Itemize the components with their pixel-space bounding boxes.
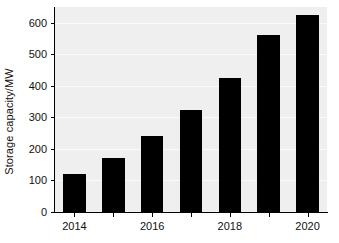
bar xyxy=(63,174,86,212)
x-tick-mark xyxy=(191,213,192,217)
bar xyxy=(102,158,125,212)
x-tick-mark xyxy=(308,213,309,217)
y-tick-label: 600 xyxy=(29,18,47,29)
x-tick-mark xyxy=(74,213,75,217)
plot-area xyxy=(55,7,327,212)
x-tick-mark xyxy=(230,213,231,217)
y-tick-label: 400 xyxy=(29,81,47,92)
bar-chart-figure: Storage capacity/MW 0100200300400500600 … xyxy=(0,0,339,243)
y-tick-mark xyxy=(51,86,55,87)
x-tick-label: 2014 xyxy=(62,220,86,232)
bars-group xyxy=(55,7,327,212)
y-tick-mark xyxy=(51,23,55,24)
y-tick-label: 300 xyxy=(29,112,47,123)
y-axis-title: Storage capacity/MW xyxy=(0,0,18,243)
x-tick-label: 2016 xyxy=(140,220,164,232)
y-tick-label: 0 xyxy=(41,207,47,218)
y-tick-label: 500 xyxy=(29,49,47,60)
bar xyxy=(219,78,242,212)
y-tick-mark xyxy=(51,180,55,181)
x-tick-label: 2018 xyxy=(218,220,242,232)
bar xyxy=(257,35,280,212)
y-tick-mark xyxy=(51,54,55,55)
y-tick-mark xyxy=(51,149,55,150)
x-tick-mark xyxy=(152,213,153,217)
y-tick-label: 200 xyxy=(29,144,47,155)
y-tick-mark xyxy=(51,117,55,118)
y-axis-spine xyxy=(54,7,55,213)
bar xyxy=(296,15,319,212)
y-tick-mark xyxy=(51,212,55,213)
x-tick-mark xyxy=(269,213,270,217)
bar xyxy=(141,136,164,212)
y-tick-label: 100 xyxy=(29,175,47,186)
x-tick-label: 2020 xyxy=(295,220,319,232)
bar xyxy=(180,110,203,213)
x-tick-mark xyxy=(113,213,114,217)
